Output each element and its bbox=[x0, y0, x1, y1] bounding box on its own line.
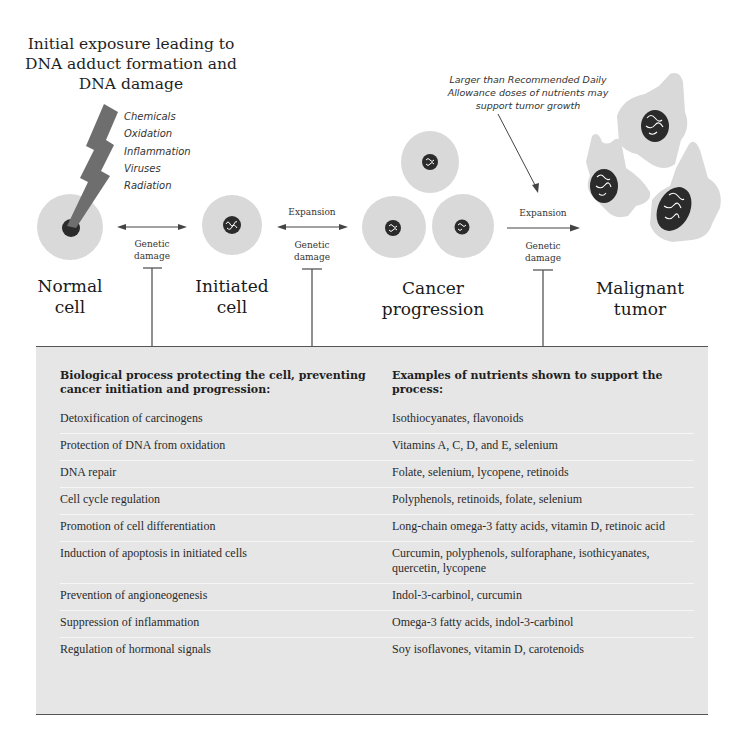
transition-label-line: Genetic bbox=[503, 240, 583, 252]
stage-label-malignant-tumor: Malignant tumor bbox=[580, 278, 700, 320]
header-process: Biological process protecting the cell, … bbox=[60, 369, 392, 397]
transition-label-2: Genetic damage bbox=[272, 239, 352, 263]
rda-note: Larger than Recommended Daily Allowance … bbox=[408, 73, 648, 112]
nutrients-cell: Omega-3 fatty acids, indol-3-carbinol bbox=[392, 615, 694, 630]
nutrients-cell: Polyphenols, retinoids, folate, selenium bbox=[392, 492, 694, 507]
agent-item: Chemicals bbox=[124, 108, 191, 125]
forward-arrow-icon bbox=[507, 225, 580, 232]
table-row: Cell cycle regulation Polyphenols, retin… bbox=[60, 488, 694, 515]
process-cell: Protection of DNA from oxidation bbox=[60, 438, 392, 453]
table-row: Regulation of hormonal signals Soy isofl… bbox=[60, 638, 694, 664]
nutrients-cell: Indol-3-carbinol, curcumin bbox=[392, 588, 694, 603]
process-cell: Prevention of angioneogenesis bbox=[60, 588, 392, 603]
process-cell: Suppression of inflammation bbox=[60, 615, 392, 630]
note-line: Allowance doses of nutrients may bbox=[408, 86, 648, 99]
progression-cells-icon bbox=[362, 131, 494, 258]
transition-label-line: damage bbox=[503, 252, 583, 264]
stage-label-line: cell bbox=[180, 297, 284, 318]
stage-label-line: tumor bbox=[580, 299, 700, 320]
transition-label-line: Genetic bbox=[272, 239, 352, 251]
bidirectional-arrow-icon bbox=[277, 224, 348, 230]
nutrients-cell: Isothiocyanates, flavonoids bbox=[392, 411, 694, 426]
transition-top-label-2: Expansion bbox=[272, 206, 352, 218]
bidirectional-arrow-icon bbox=[117, 224, 187, 230]
note-line: Larger than Recommended Daily bbox=[408, 73, 648, 86]
note-line: support tumor growth bbox=[408, 99, 648, 112]
nutrients-cell: Curcumin, polyphenols, sulforaphane, iso… bbox=[392, 546, 694, 576]
normal-cell-icon bbox=[37, 194, 103, 260]
transition-label-line: Genetic bbox=[112, 238, 192, 250]
note-pointer-arrow-icon bbox=[498, 114, 539, 193]
stage-label-line: Malignant bbox=[580, 278, 700, 299]
stage-label-initiated-cell: Initiated cell bbox=[180, 276, 284, 318]
initiated-cell-icon bbox=[202, 195, 262, 255]
transition-label-line: damage bbox=[272, 251, 352, 263]
process-cell: Cell cycle regulation bbox=[60, 492, 392, 507]
table-row: Protection of DNA from oxidation Vitamin… bbox=[60, 434, 694, 461]
stage-label-line: cell bbox=[20, 297, 120, 318]
stage-label-line: Initiated bbox=[180, 276, 284, 297]
nutrients-cell: Soy isoflavones, vitamin D, carotenoids bbox=[392, 642, 694, 657]
process-cell: Detoxification of carcinogens bbox=[60, 411, 392, 426]
agent-item: Viruses bbox=[124, 160, 191, 177]
stage-label-line: progression bbox=[370, 299, 496, 320]
table-row: Promotion of cell differentiation Long-c… bbox=[60, 515, 694, 542]
process-cell: Induction of apoptosis in initiated cell… bbox=[60, 546, 392, 576]
table-header: Biological process protecting the cell, … bbox=[60, 369, 694, 397]
transition-label-line: damage bbox=[112, 250, 192, 262]
table-row: Induction of apoptosis in initiated cell… bbox=[60, 542, 694, 584]
stage-label-normal-cell: Normal cell bbox=[20, 276, 120, 318]
nutrient-table-panel: Biological process protecting the cell, … bbox=[36, 346, 708, 715]
stage-label-line: Normal bbox=[20, 276, 120, 297]
title-line: DNA damage bbox=[20, 74, 242, 94]
process-cell: Promotion of cell differentiation bbox=[60, 519, 392, 534]
title-line: DNA adduct formation and bbox=[20, 54, 242, 74]
nutrients-cell: Folate, selenium, lycopene, retinoids bbox=[392, 465, 694, 480]
table-row: Prevention of angioneogenesis Indol-3-ca… bbox=[60, 584, 694, 611]
transition-label-3: Genetic damage bbox=[503, 240, 583, 264]
nutrients-cell: Vitamins A, C, D, and E, selenium bbox=[392, 438, 694, 453]
stage-label-line: Cancer bbox=[370, 278, 496, 299]
header-nutrients: Examples of nutrients shown to support t… bbox=[392, 369, 694, 397]
process-cell: Regulation of hormonal signals bbox=[60, 642, 392, 657]
nutrients-cell: Long-chain omega-3 fatty acids, vitamin … bbox=[392, 519, 694, 534]
stage-label-cancer-progression: Cancer progression bbox=[370, 278, 496, 320]
agent-item: Inflammation bbox=[124, 143, 191, 160]
agent-item: Radiation bbox=[124, 177, 191, 194]
transition-label-1: Genetic damage bbox=[112, 238, 192, 262]
table-row: Suppression of inflammation Omega-3 fatt… bbox=[60, 611, 694, 638]
agent-item: Oxidation bbox=[124, 125, 191, 142]
exposure-agents-list: Chemicals Oxidation Inflammation Viruses… bbox=[124, 108, 191, 194]
table-row: DNA repair Folate, selenium, lycopene, r… bbox=[60, 461, 694, 488]
table-row: Detoxification of carcinogens Isothiocya… bbox=[60, 407, 694, 434]
transition-top-label-3: Expansion bbox=[503, 207, 583, 219]
nutrient-table: Biological process protecting the cell, … bbox=[60, 369, 694, 664]
diagram-title: Initial exposure leading to DNA adduct f… bbox=[20, 34, 242, 94]
process-cell: DNA repair bbox=[60, 465, 392, 480]
title-line: Initial exposure leading to bbox=[20, 34, 242, 54]
